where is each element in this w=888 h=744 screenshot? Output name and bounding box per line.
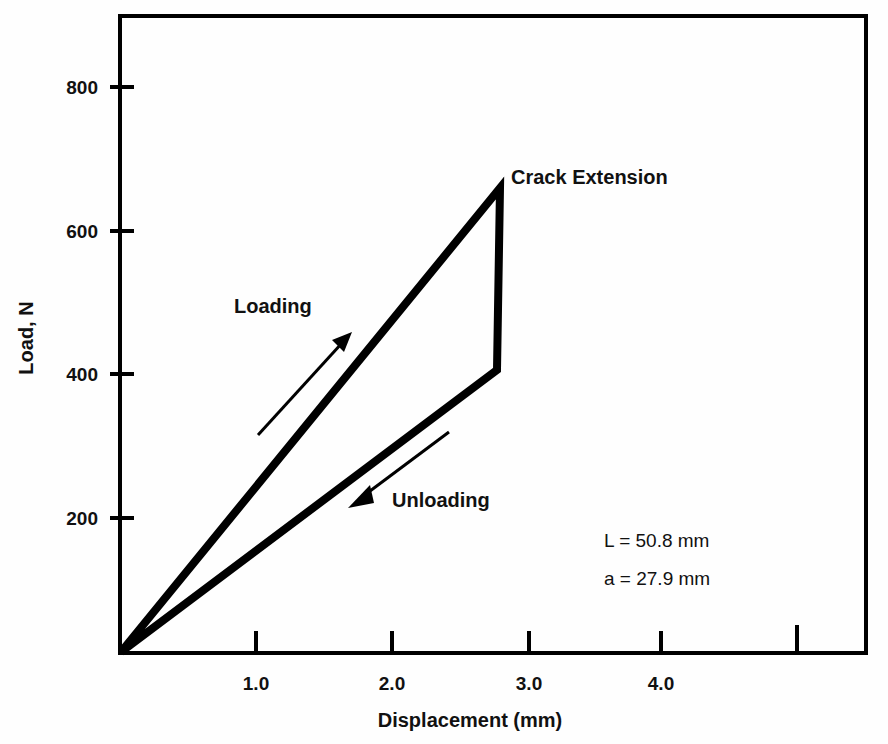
y-tick-label-400: 400 [66,364,98,385]
x-tick-label-2: 2.0 [379,673,405,694]
crack-extension-label: Crack Extension [511,166,668,188]
y-tick-label-200: 200 [66,508,98,529]
x-tick-label-4: 4.0 [648,673,674,694]
x-tick-label-3: 3.0 [516,673,542,694]
y-axis-title: Load, N [15,301,37,374]
x-axis-title: Displacement (mm) [378,709,563,731]
note-specimen-length: L = 50.8 mm [604,530,709,551]
note-crack-length: a = 27.9 mm [604,568,710,589]
load-displacement-chart: 800 600 400 200 1.0 2.0 3.0 4.0 Displace… [0,0,888,744]
chart-svg: 800 600 400 200 1.0 2.0 3.0 4.0 Displace… [0,0,888,744]
unloading-label: Unloading [392,489,490,511]
loading-label: Loading [234,295,312,317]
x-tick-label-1: 1.0 [243,673,269,694]
y-tick-label-800: 800 [66,77,98,98]
y-tick-label-600: 600 [66,221,98,242]
